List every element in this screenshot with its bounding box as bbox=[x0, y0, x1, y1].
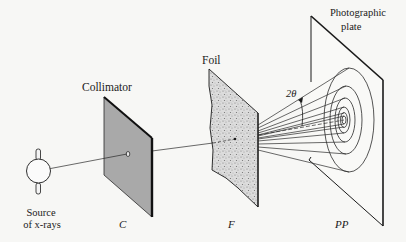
plate-label-line2: plate bbox=[341, 21, 361, 32]
angle-label: 2θ bbox=[286, 88, 296, 99]
scatter-point bbox=[234, 138, 237, 141]
foil-symbol: F bbox=[228, 219, 235, 230]
foil-label: Foil bbox=[202, 55, 221, 66]
xray-source-icon bbox=[27, 149, 51, 194]
collimator-symbol: C bbox=[119, 219, 126, 230]
plate-label-line1: Photographic bbox=[330, 7, 386, 18]
angle-arc bbox=[300, 100, 303, 126]
diagram-graphic bbox=[0, 0, 406, 242]
source-label-line1: Source bbox=[16, 207, 66, 218]
plate-symbol: PP bbox=[335, 219, 348, 230]
source-label-line2: of x-rays bbox=[12, 219, 72, 230]
diffraction-diagram: Collimator Foil Photographic plate 2θ So… bbox=[0, 0, 406, 242]
incident-beam bbox=[152, 143, 213, 151]
collimator-label: Collimator bbox=[82, 82, 132, 93]
foil bbox=[209, 69, 258, 207]
